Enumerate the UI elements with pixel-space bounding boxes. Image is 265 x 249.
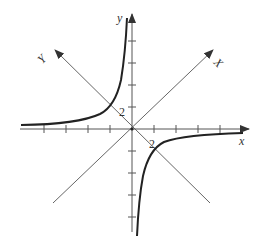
x-axis-label: x — [238, 134, 245, 148]
y-axis-label: y — [116, 11, 123, 25]
rotated-x-axis-label: X — [210, 55, 226, 71]
hyperbola-branch-upper-left — [21, 18, 127, 125]
rotated-y-axis-label: Y — [35, 51, 51, 67]
hyperbola-diagram: y x Y X 2 2 — [0, 0, 265, 249]
tick-label-2-upper: 2 — [119, 105, 125, 119]
tick-label-2-lower: 2 — [149, 137, 155, 151]
origin-point — [130, 127, 133, 130]
